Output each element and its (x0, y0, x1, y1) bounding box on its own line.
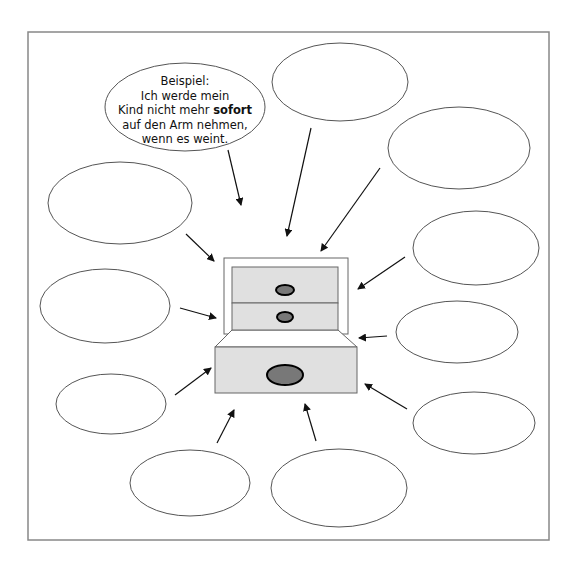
arrow-icon-bottom-middle (305, 404, 316, 441)
empty-bubble-right-middle (396, 301, 518, 363)
arrow-icon-bottom-left (217, 410, 234, 443)
arrow-icon-right-lower (365, 384, 407, 409)
example-label: Beispiel: (100, 74, 270, 89)
empty-bubble-top-right (388, 107, 530, 189)
arrow-icon-left-middle (180, 308, 216, 318)
empty-bubble-right-upper (413, 211, 539, 285)
drawer-bottom-knob-icon (267, 365, 303, 385)
empty-bubble-left-upper (48, 162, 192, 244)
empty-bubble-bottom-middle (271, 449, 407, 527)
example-line-2-bold: sofort (213, 103, 252, 117)
example-line-1: Ich werde mein (100, 89, 270, 104)
empty-bubble-left-lower (56, 374, 166, 434)
cabinet-shelf (215, 330, 357, 347)
drawer-middle-knob-icon (277, 312, 293, 322)
example-line-2: Kind nicht mehr sofort (100, 103, 270, 118)
example-line-2-prefix: Kind nicht mehr (118, 103, 213, 117)
empty-bubble-right-lower (413, 392, 535, 454)
worksheet-canvas (0, 0, 580, 569)
drawer-top-knob-icon (276, 285, 294, 295)
arrow-icon-top-right (321, 168, 380, 251)
example-bubble-text: Beispiel: Ich werde mein Kind nicht mehr… (100, 74, 270, 147)
arrow-icon-left-upper (186, 234, 214, 261)
example-line-4: wenn es weint. (100, 132, 270, 147)
arrow-icon-example (228, 150, 241, 205)
empty-bubble-left-middle (40, 269, 170, 343)
arrow-icon-top (287, 128, 311, 236)
arrow-icon-right-middle (359, 336, 387, 338)
empty-bubble-top (272, 43, 408, 121)
arrow-icon-left-lower (175, 368, 211, 395)
example-line-3: auf den Arm nehmen, (100, 118, 270, 133)
empty-bubble-bottom-left (130, 450, 250, 516)
drawer-cabinet-icon (215, 258, 357, 393)
arrow-icon-right-upper (358, 257, 405, 289)
